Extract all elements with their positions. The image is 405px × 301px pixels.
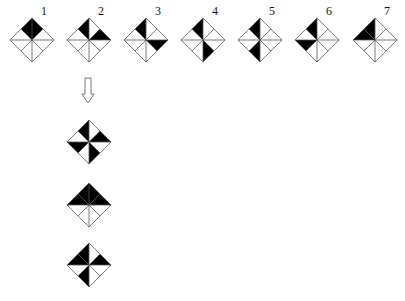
figure-number-label: 1 (41, 4, 47, 18)
figure-number-label: 5 (269, 4, 275, 18)
figure-number-label: 2 (98, 4, 104, 18)
sequence-row: 1234567 (10, 4, 397, 62)
option-figure-1 (67, 120, 111, 164)
sequence-figure-1: 1 (10, 4, 54, 62)
figure-number-label: 3 (155, 4, 161, 18)
sequence-figure-2: 2 (67, 4, 111, 62)
diagram-canvas: 1234567 (0, 0, 405, 301)
figure-number-label: 7 (384, 4, 390, 18)
arrow-shape (82, 78, 94, 103)
option-figure-2 (67, 183, 111, 227)
sequence-figure-5: 5 (238, 4, 282, 62)
sequence-figure-4: 4 (181, 4, 225, 62)
option-figure-3 (67, 243, 111, 287)
figure-number-label: 6 (326, 4, 332, 18)
sequence-figure-3: 3 (124, 4, 168, 62)
options-column (67, 120, 111, 287)
down-arrow-icon (82, 78, 94, 103)
sequence-figure-7: 7 (353, 4, 397, 62)
figure-number-label: 4 (212, 4, 218, 18)
sequence-figure-6: 6 (295, 4, 339, 62)
